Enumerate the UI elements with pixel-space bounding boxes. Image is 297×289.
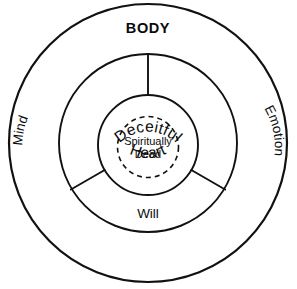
body-soul-spirit-diagram: BODY Mind Emotion Will Deceitful Heart S…: [0, 0, 297, 289]
segment-label-mind: Mind: [10, 113, 31, 146]
core-label-line1: Spiritually: [124, 135, 172, 147]
divider-lower-left: [71, 170, 105, 190]
divider-lower-right: [191, 170, 225, 190]
segment-label-mind-text: Mind: [10, 113, 31, 146]
core-label-line2: Dead: [135, 148, 161, 160]
diagram-title: BODY: [126, 20, 170, 36]
segment-label-will: Will: [137, 206, 159, 221]
diagram-canvas: BODY Mind Emotion Will Deceitful Heart S…: [0, 0, 297, 289]
